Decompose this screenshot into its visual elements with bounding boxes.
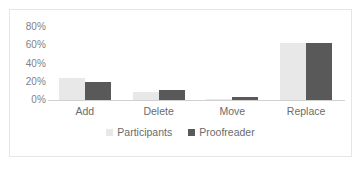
plot-area	[48, 27, 343, 100]
legend-item-participants[interactable]: Participants	[106, 127, 172, 138]
bar-participants-add	[59, 78, 85, 100]
y-axis-tick-label: 60%	[12, 40, 46, 50]
y-axis-tick-label: 20%	[12, 77, 46, 87]
legend-swatch-icon	[106, 129, 113, 136]
bar-group	[196, 27, 270, 100]
x-axis-tick-label: Delete	[122, 103, 196, 119]
y-axis-tick-label: 40%	[12, 59, 46, 69]
legend-label: Proofreader	[199, 127, 254, 138]
chart-container: 80%60%40%20%0% AddDeleteMoveReplace Part…	[9, 9, 352, 157]
bar-participants-replace	[280, 43, 306, 100]
x-axis-tick-label: Move	[196, 103, 270, 119]
x-axis-tick-label: Replace	[269, 103, 343, 119]
y-axis-tick-label: 80%	[12, 22, 46, 32]
x-axis-labels: AddDeleteMoveReplace	[48, 103, 343, 119]
legend-label: Participants	[117, 127, 172, 138]
bar-participants-delete	[133, 92, 159, 100]
y-axis-tick-label: 0%	[12, 95, 46, 105]
bar-proofreader-replace	[306, 43, 332, 100]
bar-proofreader-delete	[159, 90, 185, 100]
x-axis-tick-label: Add	[48, 103, 122, 119]
bar-group	[48, 27, 122, 100]
bar-proofreader-add	[85, 82, 111, 100]
chart-legend: ParticipantsProofreader	[10, 127, 351, 138]
bar-group	[122, 27, 196, 100]
x-axis-line	[48, 100, 345, 101]
legend-swatch-icon	[188, 129, 195, 136]
bar-group	[269, 27, 343, 100]
bar-participants-move	[206, 99, 232, 100]
legend-item-proofreader[interactable]: Proofreader	[188, 127, 254, 138]
bar-proofreader-move	[232, 97, 258, 100]
